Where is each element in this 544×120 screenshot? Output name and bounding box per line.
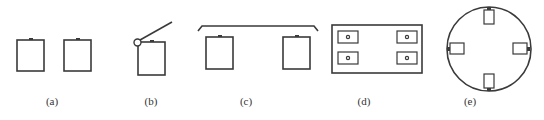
cell-d-top-right	[397, 31, 417, 43]
panel-e	[447, 7, 531, 91]
label-e: (e)	[450, 95, 490, 107]
lug-e-right	[527, 47, 530, 51]
panel-c	[198, 26, 318, 69]
box-c2	[283, 37, 310, 69]
label-d: (d)	[344, 95, 384, 107]
lug-c1	[218, 35, 222, 37]
dot-d-top-left	[346, 35, 349, 38]
ring-e	[447, 7, 531, 91]
panel-b	[134, 22, 172, 75]
cell-d-bottom-right	[397, 52, 417, 64]
lug-b	[150, 40, 154, 42]
box-c1	[206, 37, 233, 69]
bracket-c	[198, 26, 318, 31]
label-a: (a)	[32, 95, 72, 107]
panel-d	[332, 25, 422, 73]
box-a2	[64, 40, 91, 71]
box-e-right	[513, 43, 527, 54]
arm-b	[140, 22, 172, 40]
lug-a2	[76, 38, 80, 40]
lug-e-left	[447, 47, 450, 51]
cell-d-top-left	[338, 31, 358, 43]
box-a1	[17, 40, 44, 71]
lug-c2	[295, 35, 299, 37]
box-e-top	[484, 10, 494, 24]
cell-d-bottom-left	[338, 52, 358, 64]
lug-a1	[29, 38, 33, 40]
dot-d-top-right	[405, 35, 408, 38]
label-b: (b)	[131, 95, 171, 107]
box-e-left	[450, 43, 464, 54]
frame-d	[332, 25, 422, 73]
dot-d-bottom-left	[346, 56, 349, 59]
box-e-bottom	[484, 74, 494, 88]
dot-d-bottom-right	[405, 56, 408, 59]
box-b	[138, 42, 165, 75]
label-c: (c)	[226, 95, 266, 107]
pivot-b	[134, 39, 141, 46]
lug-e-bottom	[487, 88, 491, 91]
panel-a	[17, 38, 91, 71]
lug-e-top	[487, 7, 491, 10]
